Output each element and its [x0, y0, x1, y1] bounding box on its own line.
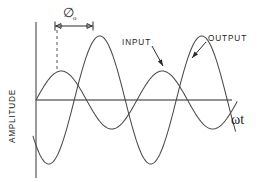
output-curve-label: OUTPUT — [208, 34, 247, 43]
phase-shift-subscript-label: o — [73, 14, 77, 22]
waveform-plot: AMPLITUDE ωt ∅ o INPUT OUTPUT — [0, 0, 259, 182]
input-curve-label: INPUT — [122, 38, 151, 47]
waveform-figure: AMPLITUDE ωt ∅ o INPUT OUTPUT — [0, 0, 259, 182]
x-axis-label: ωt — [231, 112, 244, 127]
phase-dimension — [55, 22, 93, 31]
y-axis-label: AMPLITUDE — [8, 89, 17, 143]
phase-shift-label: ∅ — [63, 5, 74, 20]
input-callout-arrowhead-icon — [158, 59, 163, 66]
